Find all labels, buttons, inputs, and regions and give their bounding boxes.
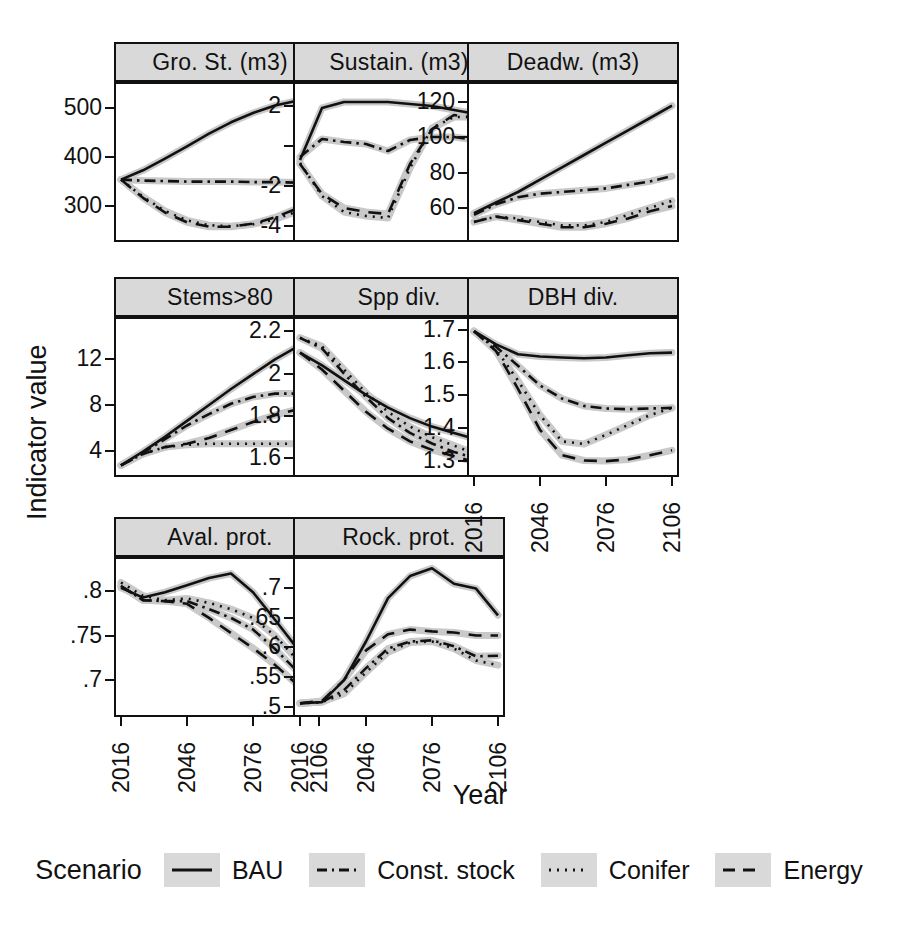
x-tick-label: 2016 xyxy=(463,502,486,553)
y-tick-label: 300 xyxy=(2,194,102,217)
facet-strip-label: Stems>80 xyxy=(167,286,273,309)
facet-strip: DBH div. xyxy=(467,277,679,317)
legend-title: Scenario xyxy=(35,855,142,886)
y-tick-mark xyxy=(458,136,467,138)
x-tick-mark xyxy=(252,717,254,726)
plot-area xyxy=(467,317,679,477)
y-tick-label: 1.7 xyxy=(355,318,455,341)
facet-strip-label: Deadw. (m3) xyxy=(507,51,640,74)
y-tick-mark xyxy=(458,427,467,429)
y-tick-label: .75 xyxy=(2,624,102,647)
y-tick-label: 4 xyxy=(2,439,102,462)
y-tick-mark xyxy=(284,105,293,107)
facet-strip: Deadw. (m3) xyxy=(467,42,679,82)
x-tick-label: 2016 xyxy=(289,742,312,793)
y-tick-mark xyxy=(105,156,114,158)
x-tick-mark xyxy=(365,717,367,726)
x-tick-mark xyxy=(605,477,607,486)
y-tick-label: -4 xyxy=(181,214,281,237)
x-tick-mark xyxy=(186,717,188,726)
legend-item-label: Conifer xyxy=(609,856,690,885)
y-tick-label: 1.8 xyxy=(181,404,281,427)
y-tick-mark xyxy=(458,361,467,363)
y-tick-mark xyxy=(284,373,293,375)
facet-strip-label: Sustain. (m3) xyxy=(329,51,468,74)
x-tick-mark xyxy=(671,477,673,486)
y-tick-mark xyxy=(458,101,467,103)
legend-line-swatch-icon xyxy=(309,853,365,887)
legend-line-swatch-icon xyxy=(164,853,220,887)
y-tick-mark xyxy=(105,107,114,109)
legend-item-const-stock[interactable]: Const. stock xyxy=(309,853,515,887)
y-tick-mark xyxy=(284,646,293,648)
x-tick-label: 2046 xyxy=(176,742,199,793)
y-tick-mark xyxy=(284,617,293,619)
y-tick-mark xyxy=(458,329,467,331)
x-tick-mark xyxy=(299,717,301,726)
y-tick-mark xyxy=(458,394,467,396)
y-tick-label: 2 xyxy=(181,362,281,385)
y-tick-mark xyxy=(105,679,114,681)
y-tick-label: 1.5 xyxy=(355,383,455,406)
x-tick-label: 2106 xyxy=(661,502,684,553)
y-tick-label: .8 xyxy=(2,579,102,602)
y-tick-mark xyxy=(284,415,293,417)
y-tick-label: 1.3 xyxy=(355,449,455,472)
y-tick-label: 2 xyxy=(181,94,281,117)
x-tick-mark xyxy=(431,717,433,726)
x-tick-label: 2046 xyxy=(529,502,552,553)
legend-item-conifer[interactable]: Conifer xyxy=(541,853,690,887)
y-tick-label: 100 xyxy=(355,125,455,148)
legend-line-swatch-icon xyxy=(541,853,597,887)
y-tick-mark xyxy=(105,590,114,592)
y-tick-mark xyxy=(105,450,114,452)
facet-strip-label: DBH div. xyxy=(528,286,619,309)
y-tick-mark xyxy=(105,404,114,406)
legend-line-swatch-icon xyxy=(715,853,771,887)
x-tick-mark xyxy=(318,717,320,726)
y-tick-label: 1.4 xyxy=(355,416,455,439)
y-tick-label: 60 xyxy=(355,196,455,219)
y-tick-label: .6 xyxy=(181,635,281,658)
y-tick-label: .7 xyxy=(181,576,281,599)
y-tick-label: 8 xyxy=(2,393,102,416)
facet-strip-label: Gro. St. (m3) xyxy=(152,51,288,74)
legend-item-energy[interactable]: Energy xyxy=(715,853,862,887)
y-tick-label: 400 xyxy=(2,145,102,168)
y-tick-mark xyxy=(458,460,467,462)
figure-panel-grid: Indicator value Year Gro. St. (m3)Sustai… xyxy=(0,0,924,927)
facet-strip-label: Spp div. xyxy=(358,286,441,309)
y-tick-mark xyxy=(284,330,293,332)
y-tick-label: 1.6 xyxy=(355,350,455,373)
plot-area xyxy=(293,557,505,717)
plot-area xyxy=(467,82,679,242)
y-tick-label: 2.2 xyxy=(181,319,281,342)
y-tick-mark xyxy=(284,706,293,708)
y-tick-label: -2 xyxy=(181,174,281,197)
y-tick-mark xyxy=(284,225,293,227)
x-tick-label: 2076 xyxy=(242,742,265,793)
y-tick-label: 120 xyxy=(355,90,455,113)
legend-item-label: BAU xyxy=(232,856,283,885)
facet-strip-label: Rock. prot. xyxy=(342,526,455,549)
y-tick-mark xyxy=(284,457,293,459)
legend-item-label: Const. stock xyxy=(377,856,515,885)
y-axis-title: Indicator value xyxy=(22,344,53,520)
x-tick-label: 2106 xyxy=(487,742,510,793)
x-tick-mark xyxy=(497,717,499,726)
y-tick-label: .7 xyxy=(2,668,102,691)
y-tick-mark xyxy=(284,145,293,147)
x-axis-title: Year xyxy=(380,780,580,811)
x-tick-mark xyxy=(539,477,541,486)
y-tick-mark xyxy=(105,358,114,360)
y-tick-label: 1.6 xyxy=(181,446,281,469)
y-tick-mark xyxy=(105,635,114,637)
y-tick-label: 500 xyxy=(2,96,102,119)
y-tick-mark xyxy=(458,172,467,174)
legend-item-bau[interactable]: BAU xyxy=(164,853,283,887)
x-tick-label: 2076 xyxy=(421,742,444,793)
y-tick-mark xyxy=(458,207,467,209)
y-tick-mark xyxy=(284,185,293,187)
x-tick-label: 2076 xyxy=(595,502,618,553)
facet-panel: Deadw. (m3) xyxy=(467,42,679,242)
